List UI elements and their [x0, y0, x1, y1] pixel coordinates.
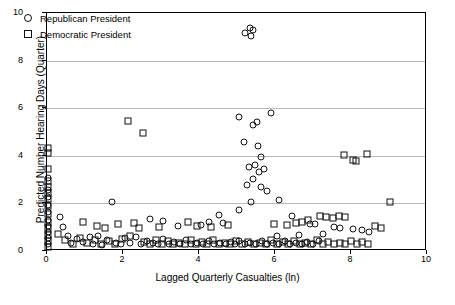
plot-area [46, 12, 426, 250]
data-point-democratic [101, 224, 108, 231]
data-point-democratic [284, 221, 291, 228]
data-point-democratic [126, 233, 133, 240]
data-point-republican [240, 138, 247, 145]
data-point-republican [311, 221, 318, 228]
data-point-democratic [365, 241, 372, 248]
data-point-democratic [342, 214, 349, 221]
y-tick-label: 4 [0, 150, 23, 160]
y-tick-mark [42, 12, 46, 13]
x-tick-mark [198, 250, 199, 254]
data-point-democratic [224, 222, 231, 229]
data-point-democratic [292, 219, 299, 226]
data-point-republican [175, 223, 182, 230]
data-point-democratic [119, 235, 126, 242]
data-point-democratic [208, 224, 215, 231]
data-point-democratic [185, 218, 192, 225]
x-tick-mark [350, 250, 351, 254]
scatter-chart: Predicted Number Hearing Days (Quarter) … [0, 0, 455, 305]
y-tick-label: 2 [0, 197, 23, 207]
y-tick-label: 0 [0, 245, 23, 255]
data-point-republican [337, 225, 344, 232]
data-point-democratic [363, 150, 370, 157]
y-tick-mark [42, 202, 46, 203]
x-tick-label: 8 [335, 254, 365, 264]
data-point-republican [59, 223, 66, 230]
data-point-republican [243, 181, 250, 188]
gridline [47, 203, 425, 204]
x-tick-label: 10 [411, 254, 441, 264]
data-point-democratic [341, 152, 348, 159]
data-point-republican [349, 226, 356, 233]
y-tick-label: 8 [0, 55, 23, 65]
data-point-republican [215, 211, 222, 218]
legend-item-democratic: Democratic President [24, 26, 131, 42]
gridline [47, 108, 425, 109]
data-point-republican [248, 199, 255, 206]
y-tick-mark [42, 155, 46, 156]
data-point-democratic [156, 223, 163, 230]
x-axis-label: Lagged Quarterly Casualties (ln) [0, 272, 455, 283]
data-point-republican [254, 142, 261, 149]
y-tick-label: 10 [0, 7, 23, 17]
data-point-democratic [139, 130, 146, 137]
data-point-democratic [299, 218, 306, 225]
data-point-republican [256, 169, 263, 176]
data-point-republican [257, 153, 264, 160]
x-tick-mark [426, 250, 427, 254]
data-point-democratic [62, 236, 69, 243]
data-point-republican [249, 122, 256, 129]
data-point-republican [108, 199, 115, 206]
data-point-republican [246, 163, 253, 170]
data-point-republican [57, 214, 64, 221]
data-point-republican [268, 110, 275, 117]
data-point-democratic [135, 225, 142, 232]
data-point-republican [235, 114, 242, 121]
x-tick-label: 2 [107, 254, 137, 264]
data-point-republican [263, 188, 270, 195]
data-point-democratic [377, 225, 384, 232]
x-tick-mark [274, 250, 275, 254]
data-point-democratic [349, 157, 356, 164]
data-point-republican [275, 196, 282, 203]
legend-label-republican: Republican President [40, 13, 130, 24]
data-point-republican [147, 215, 154, 222]
chart-legend: Republican President Democratic Presiden… [24, 10, 131, 42]
data-point-democratic [69, 240, 76, 247]
legend-item-republican: Republican President [24, 10, 131, 26]
x-tick-label: 6 [259, 254, 289, 264]
data-point-democratic [83, 240, 90, 247]
data-point-republican [249, 27, 256, 34]
y-tick-label: 6 [0, 102, 23, 112]
data-point-republican [133, 233, 140, 240]
data-point-republican [235, 207, 242, 214]
data-point-republican [252, 161, 259, 168]
data-point-democratic [97, 241, 104, 248]
data-point-democratic [80, 218, 87, 225]
x-tick-mark [122, 250, 123, 254]
y-axis-label: Predicted Number Hearing Days (Quarter) [35, 14, 46, 246]
data-point-republican [366, 229, 373, 236]
x-tick-label: 0 [31, 254, 61, 264]
data-point-democratic [115, 221, 122, 228]
data-point-democratic [386, 199, 393, 206]
data-point-democratic [194, 223, 201, 230]
data-point-democratic [305, 216, 312, 223]
circle-marker-icon [24, 14, 32, 22]
data-point-republican [126, 240, 133, 247]
square-marker-icon [24, 30, 32, 38]
data-point-democratic [124, 118, 131, 125]
x-tick-mark [46, 250, 47, 254]
data-point-republican [249, 176, 256, 183]
y-tick-mark [42, 60, 46, 61]
data-point-democratic [271, 220, 278, 227]
gridline [47, 61, 425, 62]
data-point-democratic [94, 223, 101, 230]
x-tick-label: 4 [183, 254, 213, 264]
legend-label-democratic: Democratic President [40, 29, 131, 40]
data-point-democratic [111, 240, 118, 247]
y-tick-mark [42, 107, 46, 108]
